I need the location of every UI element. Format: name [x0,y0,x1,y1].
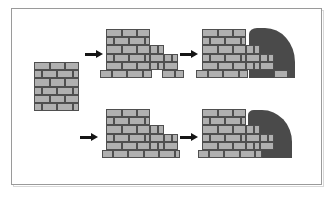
wall-brick [150,125,158,133]
panel-brick [65,78,79,86]
footing-brick [143,70,153,78]
wall-brick [106,117,114,125]
figure-canvas [0,0,335,198]
arrow-top-1 [85,50,103,59]
wall-brick [129,134,145,142]
footing-brick [162,70,175,78]
wall-brick [114,37,130,45]
wall-brick [210,54,226,62]
footing-brick [223,70,239,78]
wall-brick [202,117,210,125]
panel-brick [57,70,73,78]
panel-brick [73,103,79,111]
wall-brick [225,37,241,45]
panel-brick [57,87,73,95]
pad-footing-left [100,70,152,78]
wall-brick [202,45,218,53]
stepped-wall-pad-footing-backfilled [202,28,294,84]
wall-brick [202,29,218,37]
wall-brick [268,54,274,62]
wall-brick [172,54,178,62]
wall-brick [225,117,241,125]
arrow-bottom-2 [180,133,198,142]
footing-brick [127,70,143,78]
wall-brick [218,125,234,133]
panel-brick [34,103,42,111]
panel-brick [42,70,58,78]
pad-footing-right [274,70,290,78]
footing-brick [240,150,256,158]
footing-brick [113,150,129,158]
panel-brick [42,103,58,111]
panel-brick [50,62,66,70]
wall-brick [106,142,122,150]
wall-brick [150,45,158,53]
footing-brick [175,150,181,158]
wall-step-column [260,110,274,162]
panel-brick [65,95,79,103]
wall-brick [202,37,210,45]
wall-brick [106,62,122,70]
panel-brick [34,78,50,86]
wall-brick [129,117,145,125]
wall-brick [114,117,130,125]
wall-brick [106,109,122,117]
wall-brick [233,142,246,150]
wall-brick [137,109,150,117]
wall-brick [233,62,246,70]
footing-brick [175,70,185,78]
wall-brick [122,45,138,53]
panel-brick [50,95,66,103]
footing-brick [274,70,288,78]
wall-brick [233,45,246,53]
wall-brick [210,134,226,142]
wall-brick [218,142,234,150]
wall-brick [114,134,130,142]
wall-brick [233,29,246,37]
wall-brick [218,29,234,37]
panel-brick [34,62,50,70]
panel-brick [34,70,42,78]
strip-footing [198,150,262,158]
wall-brick [210,37,226,45]
wall-brick [137,45,150,53]
stepped-wall-strip-footing [106,110,178,162]
panel-brick [50,78,66,86]
wall-brick [225,134,241,142]
footing-brick [255,150,262,158]
wall-brick [129,37,145,45]
brick-panel-wall [34,62,79,115]
panel-brick [34,87,42,95]
wall-brick [164,54,172,62]
wall-brick [106,29,122,37]
wall-brick [260,54,268,62]
footing-brick [196,70,208,78]
footing-brick [208,70,224,78]
wall-brick [122,109,138,117]
wall-brick [137,125,150,133]
wall-brick [106,134,114,142]
wall-brick [246,125,254,133]
wall-brick [122,29,138,37]
wall-brick [260,134,268,142]
panel-brick [34,95,50,103]
wall-brick [122,125,138,133]
footing-brick [198,150,209,158]
wall-brick [202,142,218,150]
wall-brick [106,37,114,45]
wall-brick [137,62,150,70]
wall-brick [210,117,226,125]
wall-brick [202,54,210,62]
wall-step-column [260,28,274,84]
wall-brick [202,109,218,117]
wall-brick [225,54,241,62]
wall-brick [114,54,130,62]
panel-brick [73,70,79,78]
wall-brick [106,54,114,62]
footing-brick [159,150,175,158]
arrow-top-2 [180,50,198,59]
wall-brick [202,125,218,133]
strip-footing [102,150,180,158]
pad-footing-left [196,70,248,78]
footing-brick [112,70,128,78]
